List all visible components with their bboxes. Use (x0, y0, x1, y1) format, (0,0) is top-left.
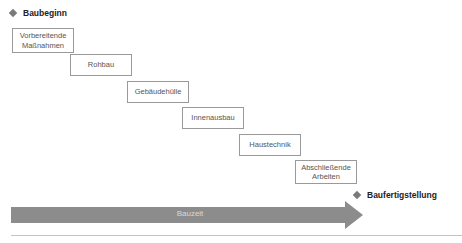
phase-box-innenausbau: Innenausbau (182, 107, 244, 129)
phase-label: Rohbau (88, 60, 114, 70)
milestone-start: Baubeginn (10, 8, 67, 18)
phase-box-vorbereitende-massnahmen: Vorbereitende Maßnahmen (12, 28, 74, 53)
phase-label: Gebäudehülle (135, 87, 182, 97)
diamond-icon (353, 191, 361, 199)
phase-label: Abschließende Arbeiten (296, 163, 356, 182)
timeline-label: Bauzeit (160, 209, 220, 218)
phase-label: Haustechnik (249, 140, 290, 150)
diamond-icon (9, 9, 17, 17)
phase-box-abschliessende-arbeiten: Abschließende Arbeiten (295, 160, 357, 184)
milestone-start-label: Baubeginn (23, 8, 67, 18)
milestone-end-label: Baufertigstellung (367, 190, 437, 200)
phase-label: Innenausbau (191, 113, 234, 123)
phase-box-haustechnik: Haustechnik (239, 134, 301, 156)
phase-box-gebaeudehuelle: Gebäudehülle (127, 81, 189, 103)
milestone-end: Baufertigstellung (354, 190, 437, 200)
phase-box-rohbau: Rohbau (70, 54, 132, 76)
phase-label: Vorbereitende Maßnahmen (13, 31, 73, 50)
baseline-divider (11, 235, 462, 236)
